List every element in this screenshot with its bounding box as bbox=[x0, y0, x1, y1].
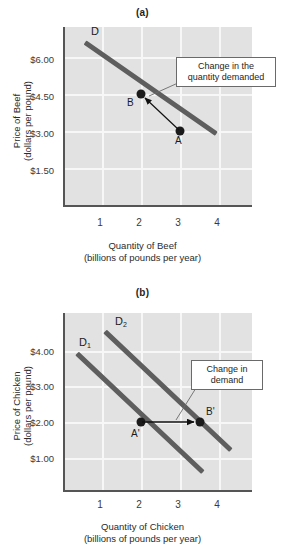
panel-b-y-axis-title-line2: (dollars per pound) bbox=[22, 341, 33, 471]
panel-b-curve-label-D2-text: D bbox=[115, 315, 123, 327]
panel-b-point-B-prime bbox=[196, 418, 205, 427]
panel-b-plot-area: D1 D2 A' B' bbox=[63, 313, 252, 492]
panel-b-demand-curve-D2 bbox=[103, 330, 232, 452]
panel-b-curve-label-D1-sub: 1 bbox=[87, 342, 91, 349]
panel-a-x-axis-title-line1: Quantity of Beef bbox=[0, 240, 285, 252]
panel-a-callout-line2: quantity demanded bbox=[181, 72, 271, 83]
panel-b-callout-line1: Change in bbox=[196, 364, 258, 375]
panel-b-callout-line2: demand bbox=[196, 375, 258, 386]
panel-b-x-axis-title-line1: Quantity of Chicken bbox=[0, 521, 285, 533]
panel-b-point-label-B-prime: B' bbox=[206, 406, 215, 417]
panel-a-ytick-2: $3.00 bbox=[8, 128, 54, 139]
panel-a-xtick-2: 3 bbox=[168, 217, 188, 228]
panel-b-xtick-3: 4 bbox=[207, 499, 227, 510]
panel-b-curve-label-D2: D2 bbox=[115, 315, 127, 327]
panel-b-ytick-3: $1.00 bbox=[8, 453, 54, 464]
panel-b-ytick-1: $3.00 bbox=[8, 381, 54, 392]
panel-b-y-axis-title: Price of Chicken (dollars per pound) bbox=[11, 341, 33, 471]
panel-b-ytick-0: $4.00 bbox=[8, 346, 54, 357]
panel-b-point-label-A-prime: A' bbox=[131, 428, 140, 439]
panel-b-callout: Change in demand bbox=[191, 360, 263, 390]
panel-a-xtick-0: 1 bbox=[90, 217, 110, 228]
panel-b-gridline-v-2 bbox=[141, 313, 143, 490]
panel-a-title: (a) bbox=[0, 7, 285, 18]
panel-a-gridline-h-3 bbox=[65, 131, 252, 133]
panel-b-gridline-v-4 bbox=[219, 313, 221, 490]
panel-b-gridline-h-3 bbox=[65, 422, 252, 424]
panel-b-gridline-h-4 bbox=[65, 458, 252, 460]
panel-a-x-axis-title: Quantity of Beef (billions of pounds per… bbox=[0, 240, 285, 263]
panel-a-point-label-B: B bbox=[127, 97, 134, 108]
panel-a-xtick-1: 2 bbox=[129, 217, 149, 228]
panel-a-gridline-v-4 bbox=[219, 27, 221, 205]
panel-a-ytick-3: $1.50 bbox=[8, 165, 54, 176]
panel-b-x-axis-title: Quantity of Chicken (billions of pounds … bbox=[0, 521, 285, 544]
panel-b-point-A-prime bbox=[137, 418, 146, 427]
panel-b-x-axis-title-line2: (billions of pounds per year) bbox=[0, 533, 285, 545]
panel-a-point-label-A: A bbox=[175, 135, 182, 146]
panel-a-curve-label-D-text: D bbox=[91, 25, 99, 37]
panel-a-point-B bbox=[137, 90, 146, 99]
panel-b-ytick-2: $2.00 bbox=[8, 417, 54, 428]
panel-b-xtick-2: 3 bbox=[168, 499, 188, 510]
panel-b-demand-curve-D1 bbox=[75, 352, 204, 474]
panel-a-plot-area: D B A bbox=[63, 27, 252, 207]
panel-a: (a) Price of Beef (dollars per pound) $6… bbox=[0, 0, 285, 280]
panel-a-gridline-h-4 bbox=[65, 168, 252, 170]
panel-b-xtick-0: 1 bbox=[90, 499, 110, 510]
panel-a-gridline-v-3 bbox=[180, 27, 182, 205]
panel-b-xtick-1: 2 bbox=[129, 499, 149, 510]
panel-b-gridline-v-1 bbox=[102, 313, 104, 490]
panel-a-gridline-v-2 bbox=[141, 27, 143, 205]
panel-b-curve-label-D1-text: D bbox=[79, 336, 87, 348]
panel-a-curve-label-D: D bbox=[91, 25, 99, 37]
panel-a-callout: Change in the quantity demanded bbox=[176, 57, 276, 87]
panel-b: (b) Price of Chicken (dollars per pound)… bbox=[0, 280, 285, 560]
panel-a-x-axis-title-line2: (billions of pounds per year) bbox=[0, 252, 285, 264]
panel-b-y-axis-title-line1: Price of Chicken bbox=[11, 341, 22, 471]
panel-b-curve-label-D2-sub: 2 bbox=[123, 321, 127, 328]
panel-a-ytick-1: $4.50 bbox=[8, 91, 54, 102]
panel-a-ytick-0: $6.00 bbox=[8, 54, 54, 65]
panel-a-xtick-3: 4 bbox=[207, 217, 227, 228]
panel-b-gridline-h-1 bbox=[65, 351, 252, 353]
panel-a-callout-line1: Change in the bbox=[181, 61, 271, 72]
panel-b-title: (b) bbox=[0, 287, 285, 298]
panel-b-curve-label-D1: D1 bbox=[79, 336, 91, 348]
